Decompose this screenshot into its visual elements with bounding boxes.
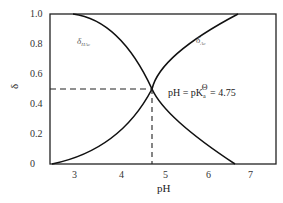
label-ac: δAc⁻ <box>196 35 208 46</box>
x-axis-ticks: 3 4 5 6 7 <box>72 169 253 180</box>
svg-text:0.2: 0.2 <box>30 128 43 139</box>
svg-text:1.0: 1.0 <box>30 8 43 19</box>
label-hac: δHAc <box>77 36 91 47</box>
y-axis-label: δ <box>8 84 20 89</box>
svg-text:7: 7 <box>248 169 253 180</box>
svg-text:0.8: 0.8 <box>30 38 43 49</box>
pka-annotation: pH = pKaΘ = 4.75 <box>168 83 236 99</box>
x-axis-label: pH <box>157 182 171 194</box>
y-axis-ticks: 1.0 0.8 0.6 0.4 0.2 0 <box>30 8 43 169</box>
svg-text:5: 5 <box>163 169 168 180</box>
svg-text:6: 6 <box>206 169 211 180</box>
svg-text:0.4: 0.4 <box>30 98 43 109</box>
svg-text:3: 3 <box>72 169 77 180</box>
chart: 1.0 0.8 0.6 0.4 0.2 0 δ 3 4 5 6 7 pH δHA… <box>0 0 283 203</box>
svg-text:0.6: 0.6 <box>30 68 43 79</box>
svg-text:0: 0 <box>30 158 35 169</box>
svg-text:4: 4 <box>119 169 124 180</box>
